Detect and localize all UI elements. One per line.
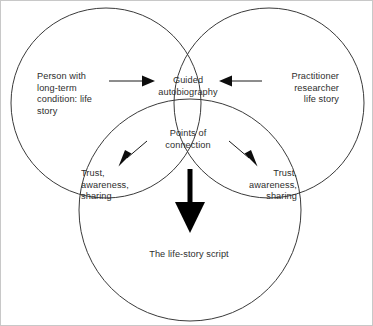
arrow-connection-to-trust-right [229,141,258,167]
arrow-connection-to-trust-left [119,141,148,167]
label-trust-awareness-sharing-right: Trust, awareness, sharing [233,168,297,203]
arrow-guided-to-script [175,169,205,233]
label-practitioner-researcher: Practitioner researcher life story [263,71,339,106]
label-points-of-connection: Points of connection [144,128,232,151]
label-trust-awareness-sharing-left: Trust, awareness, sharing [81,168,143,203]
venn-diagram-frame: Person with long-term condition: life st… [0,0,373,326]
label-life-story-script: The life-story script [125,249,253,261]
label-guided-autobiography: Guided autobiography [142,75,234,98]
label-person-with-condition: Person with long-term condition: life st… [37,71,109,117]
venn-diagram-canvas [1,1,373,326]
